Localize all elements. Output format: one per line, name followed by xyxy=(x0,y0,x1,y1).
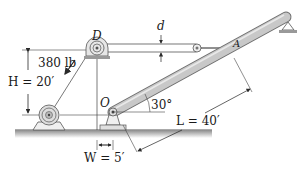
horizontal-rod xyxy=(97,44,233,52)
winch xyxy=(33,105,65,130)
angle-label: 30° xyxy=(151,98,172,112)
pin-label: O xyxy=(100,96,110,110)
attachment-label: A xyxy=(232,38,240,49)
height-label: H = 20′ xyxy=(8,75,54,89)
width-dimension xyxy=(97,140,113,150)
width-label: W = 5′ xyxy=(84,151,125,165)
boom-cable-diagram: H = 20′ 380 lb d D A xyxy=(0,0,303,172)
ground xyxy=(15,130,212,138)
diameter-label: d xyxy=(157,19,165,33)
boom xyxy=(113,15,286,112)
pulley-label: D xyxy=(91,29,102,43)
force-label: 380 lb xyxy=(38,56,77,70)
length-label: L = 40′ xyxy=(176,114,220,128)
